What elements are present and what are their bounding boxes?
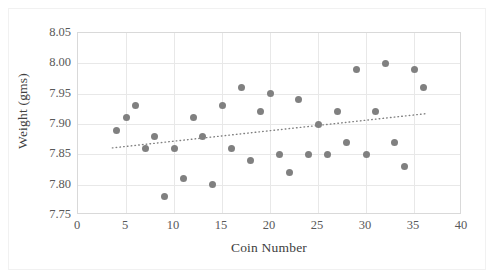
x-tick-label: 30 — [345, 219, 385, 232]
y-axis-tick-labels: 7.757.807.857.907.958.008.05 — [0, 32, 71, 214]
data-point — [142, 145, 149, 152]
data-point — [267, 90, 274, 97]
data-point — [123, 114, 130, 121]
scatter-chart: Weight (gms) 7.757.807.857.907.958.008.0… — [0, 0, 494, 278]
x-tick-label: 0 — [57, 219, 97, 232]
x-tick-label: 25 — [297, 219, 337, 232]
x-tick-label: 15 — [201, 219, 241, 232]
x-tick-label: 5 — [105, 219, 145, 232]
data-point — [411, 66, 418, 73]
x-axis-title: Coin Number — [77, 240, 461, 256]
data-point — [151, 133, 158, 140]
y-tick-label: 8.05 — [5, 26, 71, 39]
data-point — [391, 139, 398, 146]
data-point — [219, 102, 226, 109]
data-point — [276, 151, 283, 158]
trendline-segment — [112, 114, 425, 148]
data-point — [209, 181, 216, 188]
data-point — [401, 163, 408, 170]
data-point — [315, 121, 322, 128]
data-point — [286, 169, 293, 176]
data-point — [353, 66, 360, 73]
y-tick-label: 7.95 — [5, 86, 71, 99]
x-tick-label: 40 — [441, 219, 481, 232]
data-point — [228, 145, 235, 152]
y-tick-label: 7.85 — [5, 147, 71, 160]
y-tick-label: 8.00 — [5, 56, 71, 69]
x-axis-tick-labels: 0510152025303540 — [77, 219, 461, 235]
x-tick-label: 10 — [153, 219, 193, 232]
y-tick-label: 7.90 — [5, 117, 71, 130]
data-point — [363, 151, 370, 158]
x-tick-label: 20 — [249, 219, 289, 232]
trendline — [78, 33, 460, 213]
data-point — [171, 145, 178, 152]
x-tick-label: 35 — [393, 219, 433, 232]
data-point — [343, 139, 350, 146]
plot-area — [77, 32, 461, 214]
y-tick-label: 7.80 — [5, 177, 71, 190]
data-point — [305, 151, 312, 158]
data-point — [238, 84, 245, 91]
data-point — [382, 60, 389, 67]
data-point — [113, 127, 120, 134]
data-point — [199, 133, 206, 140]
data-point — [324, 151, 331, 158]
